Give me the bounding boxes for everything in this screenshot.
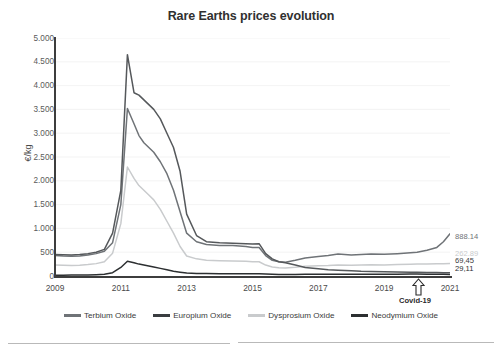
series-lines [55,55,450,275]
legend-label: Europium Oxide [173,311,231,320]
series-line [55,55,450,273]
y-axis-tick: 5.000 [10,34,54,43]
legend-label: Terbium Oxide [84,311,136,320]
up-arrow-icon [412,278,425,296]
y-axis-tick: 500 [10,248,54,257]
plot-area [55,38,450,276]
gridlines [55,38,450,252]
covid-annotation-label: Covid-19 [399,296,431,305]
y-axis-line [54,37,56,277]
y-axis-tick: 3.500 [10,105,54,114]
footer-divider-left [8,343,230,344]
legend-item[interactable]: Europium Oxide [153,311,231,320]
legend-item[interactable]: Dysprosium Oxide [248,311,334,320]
x-axis-tick: 2011 [112,283,130,293]
series-end-label: 29,11 [455,265,473,273]
x-axis-tick: 2019 [375,283,394,293]
series-line [55,261,450,275]
series-line [55,167,450,268]
legend-color-swatch [248,314,265,316]
legend-color-swatch [351,314,368,316]
y-axis-tick: 2.500 [10,153,54,162]
chart-title: Rare Earths prices evolution [0,9,502,23]
series-end-label: 888.14 [455,233,478,241]
x-axis-tick: 2009 [46,283,65,293]
y-axis-tick-labels: 5.0004.5004.0003.5003.0002.5002.0001.500… [10,0,54,349]
y-axis-tick: 2.000 [10,176,54,185]
y-axis-tick: 3.000 [10,129,54,138]
y-axis-tick: 4.500 [10,57,54,66]
x-axis-tick: 2013 [177,283,196,293]
chart-legend: Terbium OxideEuropium OxideDysprosium Ox… [0,311,502,320]
series-svg [55,38,450,276]
chart-container: Rare Earths prices evolution €/kg 5.0004… [0,0,502,349]
y-axis-tick: 0 [10,272,54,281]
footer-divider-right [238,342,494,343]
legend-item[interactable]: Terbium Oxide [64,311,136,320]
legend-label: Neodymium Oxide [371,311,438,320]
y-axis-tick: 4.000 [10,81,54,90]
x-axis-tick: 2015 [243,283,262,293]
legend-label: Dysprosium Oxide [268,311,334,320]
x-axis-tick: 2021 [441,283,460,293]
y-axis-tick: 1.000 [10,224,54,233]
legend-color-swatch [153,314,170,316]
x-axis-tick: 2017 [309,283,328,293]
legend-item[interactable]: Neodymium Oxide [351,311,438,320]
y-axis-tick: 1.500 [10,200,54,209]
legend-color-swatch [64,314,81,316]
x-axis-line [54,276,452,278]
series-line [55,108,450,262]
